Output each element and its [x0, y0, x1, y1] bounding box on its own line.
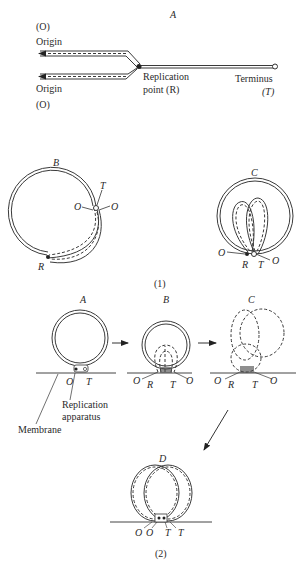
bottom-strand-inner [40, 66, 140, 74]
terminus-label: Terminus [235, 73, 273, 84]
fig2-panel-c-R: R [227, 379, 234, 390]
top-strand-inner [40, 56, 137, 67]
fig2-panel-a: A O T Replication apparatus Membrane [18, 294, 108, 435]
panel-b-O-left: O [74, 201, 81, 212]
fig2-panel-b-O-left: O [133, 375, 140, 386]
fig2-panel-a-T: T [86, 376, 93, 387]
fig2-panel-c: C O R T O [214, 294, 284, 390]
panel-a-label: A [169, 9, 177, 20]
panel-b-label: B [53, 157, 59, 168]
replication-diagram: A (O) Origin Origin (O) Replication poin… [0, 0, 298, 568]
fig1-panel-a: A (O) Origin Origin (O) Replication poin… [36, 9, 278, 111]
figure-1-caption: (1) [154, 278, 166, 290]
panel-c-label: C [251, 167, 258, 178]
fig2-panel-c-O-right: O [270, 375, 277, 386]
fig2-panel-a-label: A [79, 294, 87, 305]
fig2-panel-d-T1: T [165, 527, 172, 538]
fig2-panel-d: D O O T T [110, 453, 212, 538]
figure-2-caption: (2) [155, 548, 167, 560]
replication-point-dot [137, 64, 142, 69]
origin-top-symbol: (O) [36, 21, 50, 33]
fig2-panel-b-O-right: O [186, 375, 193, 386]
arrow-c-to-d-icon [204, 410, 228, 450]
fig2-panel-d-O1: O [135, 527, 142, 538]
fig2-panel-d-label: D [158, 453, 167, 464]
membrane-label: Membrane [18, 424, 62, 435]
replication-apparatus-label-1: Replication [62, 399, 108, 410]
fig1-panel-c: C O R T O [217, 167, 293, 270]
fig2-panel-b: B O R T O [133, 294, 193, 390]
replication-label-1: Replication [143, 71, 189, 82]
origin-bottom-label: Origin [36, 83, 62, 94]
fig2-panel-a-O: O [66, 376, 73, 387]
replication-label-2: point (R) [143, 84, 179, 96]
origin-top-label: Origin [36, 36, 62, 47]
fig1-panel-b: B T O O R [8, 157, 118, 272]
terminus-symbol: (T) [262, 86, 275, 98]
fig2-panel-b-T: T [170, 379, 177, 390]
replication-apparatus-label-2: apparatus [62, 411, 100, 422]
top-strand-outer [40, 51, 140, 64]
panel-b-O-right: O [111, 201, 118, 212]
fig2-panel-b-R: R [146, 379, 153, 390]
fig2-panel-c-T: T [252, 379, 259, 390]
fig2-panel-c-O-left: O [214, 375, 221, 386]
panel-c-R: R [241, 259, 248, 270]
fig2-panel-d-T2: T [178, 527, 185, 538]
fig2-panel-c-label: C [248, 294, 255, 305]
panel-c-O-left: O [218, 247, 225, 258]
panel-c-O-right: O [272, 255, 279, 266]
panel-c-T: T [258, 259, 265, 270]
fig2-panel-b-label: B [163, 294, 169, 305]
panel-b-R: R [37, 261, 44, 272]
fig2-panel-d-O2: O [146, 527, 153, 538]
terminus-dot [273, 64, 278, 69]
origin-bottom-symbol: (O) [36, 99, 50, 111]
panel-b-T: T [100, 180, 107, 191]
